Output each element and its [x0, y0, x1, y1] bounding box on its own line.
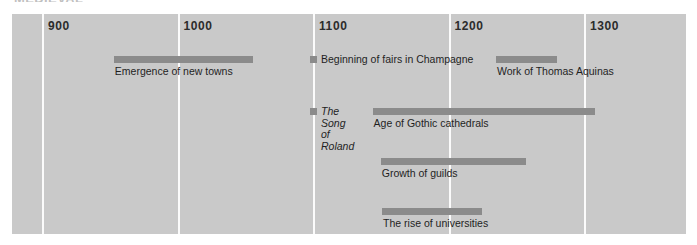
event-label-beginning-of-fairs-in-champagne: Beginning of fairs in Champagne: [321, 54, 473, 66]
gridline-900: [42, 14, 44, 234]
event-bar-emergence-of-new-towns[interactable]: [114, 56, 254, 63]
event-marker-beginning-of-fairs-in-champagne[interactable]: [310, 56, 317, 63]
event-label-the-song-of-roland: The Song of Roland: [321, 106, 354, 152]
event-bar-work-of-thomas-aquinas[interactable]: [496, 56, 557, 63]
event-label-growth-of-guilds: Growth of guilds: [382, 168, 458, 180]
event-bar-age-of-gothic-cathedrals[interactable]: [373, 108, 595, 115]
event-label-the-rise-of-universities: The rise of universities: [383, 218, 488, 230]
event-bar-growth-of-guilds[interactable]: [381, 158, 526, 165]
axis-tick-label-1000: 1000: [184, 19, 213, 33]
event-bar-the-rise-of-universities[interactable]: [382, 208, 482, 215]
event-label-work-of-thomas-aquinas: Work of Thomas Aquinas: [497, 66, 614, 78]
event-label-age-of-gothic-cathedrals: Age of Gothic cathedrals: [374, 118, 489, 130]
plot-area: 9001000110012001300 Emergence of new tow…: [12, 14, 686, 234]
gridline-1300: [584, 14, 586, 234]
gridline-1100: [313, 14, 315, 234]
axis-tick-label-1200: 1200: [455, 19, 484, 33]
axis-tick-label-1100: 1100: [319, 19, 347, 33]
gridline-1000: [178, 14, 180, 234]
axis-tick-label-900: 900: [48, 19, 70, 33]
axis-tick-label-1300: 1300: [590, 19, 619, 33]
figure-heading-remnant: MEDIEVAL: [14, 0, 83, 2]
event-marker-the-song-of-roland[interactable]: [310, 108, 317, 115]
timeline-chart: 9001000110012001300 Emergence of new tow…: [12, 14, 686, 234]
event-label-emergence-of-new-towns: Emergence of new towns: [115, 66, 233, 78]
